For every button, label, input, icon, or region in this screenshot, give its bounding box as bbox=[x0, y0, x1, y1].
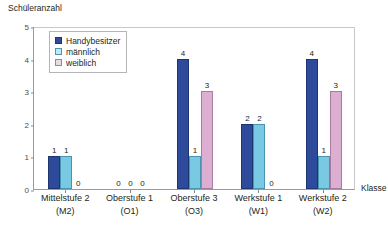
legend-item-handybesitzer: Handybesitzer bbox=[55, 35, 120, 46]
x-axis-category-code: (O3) bbox=[162, 205, 226, 218]
legend-item-maennlich: männlich bbox=[55, 46, 120, 57]
legend-swatch-icon bbox=[55, 59, 62, 66]
x-axis-category-label: Werkstufe 2(W2) bbox=[291, 192, 355, 218]
bar: 2 bbox=[241, 124, 253, 189]
bar-value-label: 1 bbox=[193, 146, 197, 155]
y-axis-title: Schüleranzahl bbox=[8, 3, 62, 13]
bar-value-label: 2 bbox=[245, 114, 249, 123]
bar: 1 bbox=[48, 156, 60, 189]
x-axis-category-code: (O1) bbox=[97, 205, 161, 218]
legend-label: Handybesitzer bbox=[66, 36, 120, 46]
bar-value-label: 4 bbox=[181, 49, 185, 58]
bar-value-label: 0 bbox=[116, 179, 120, 188]
bar-group: 413 bbox=[306, 28, 342, 189]
bar: 3 bbox=[330, 91, 342, 189]
bar: 1 bbox=[60, 156, 72, 189]
bar-value-label: 2 bbox=[257, 114, 261, 123]
chart-legend: Handybesitzer männlich weiblich bbox=[49, 31, 127, 73]
x-axis-category-label: Oberstufe 3(O3) bbox=[162, 192, 226, 218]
bar-value-label: 0 bbox=[128, 179, 132, 188]
bar-group: 413 bbox=[177, 28, 213, 189]
x-axis-tick-mark bbox=[323, 190, 324, 193]
bar-chart: Schüleranzahl Klasse 012345 110000413220… bbox=[0, 0, 388, 243]
bar: 1 bbox=[318, 156, 330, 189]
x-axis-category-code: (M2) bbox=[33, 205, 97, 218]
x-axis-category-name: Mittelstufe 2 bbox=[41, 193, 90, 203]
bar-value-label: 0 bbox=[269, 179, 273, 188]
x-axis-category-label: Werkstufe 1(W1) bbox=[226, 192, 290, 218]
x-axis-category-label: Oberstufe 1(O1) bbox=[97, 192, 161, 218]
x-axis-category-code: (W2) bbox=[291, 205, 355, 218]
bar: 1 bbox=[189, 156, 201, 189]
x-axis-category-name: Oberstufe 1 bbox=[106, 193, 153, 203]
legend-label: weiblich bbox=[66, 58, 96, 68]
bar-value-label: 1 bbox=[64, 146, 68, 155]
bar-value-label: 0 bbox=[140, 179, 144, 188]
x-axis-tick-mark bbox=[258, 190, 259, 193]
bar: 2 bbox=[253, 124, 265, 189]
x-axis-tick-mark bbox=[194, 190, 195, 193]
bar-value-label: 1 bbox=[322, 146, 326, 155]
x-axis-tick-mark bbox=[65, 190, 66, 193]
bar-value-label: 4 bbox=[310, 49, 314, 58]
bar-value-label: 3 bbox=[205, 81, 209, 90]
x-axis-category-name: Werkstufe 2 bbox=[299, 193, 347, 203]
bar: 3 bbox=[201, 91, 213, 189]
bar: 4 bbox=[306, 59, 318, 189]
legend-item-weiblich: weiblich bbox=[55, 57, 120, 68]
legend-swatch-icon bbox=[55, 37, 62, 44]
x-axis-category-code: (W1) bbox=[226, 205, 290, 218]
bar-value-label: 3 bbox=[334, 81, 338, 90]
bar-value-label: 1 bbox=[52, 146, 56, 155]
x-axis-category-label: Mittelstufe 2(M2) bbox=[33, 192, 97, 218]
x-axis-title: Klasse bbox=[361, 183, 387, 193]
bar-group: 220 bbox=[241, 28, 277, 189]
bar: 4 bbox=[177, 59, 189, 189]
x-axis-labels: Mittelstufe 2(M2)Oberstufe 1(O1)Oberstuf… bbox=[33, 192, 355, 237]
x-axis-category-name: Oberstufe 3 bbox=[170, 193, 217, 203]
bar-value-label: 0 bbox=[76, 179, 80, 188]
x-axis-category-name: Werkstufe 1 bbox=[234, 193, 282, 203]
legend-swatch-icon bbox=[55, 48, 62, 55]
x-axis-tick-mark bbox=[130, 190, 131, 193]
legend-label: männlich bbox=[66, 47, 100, 57]
